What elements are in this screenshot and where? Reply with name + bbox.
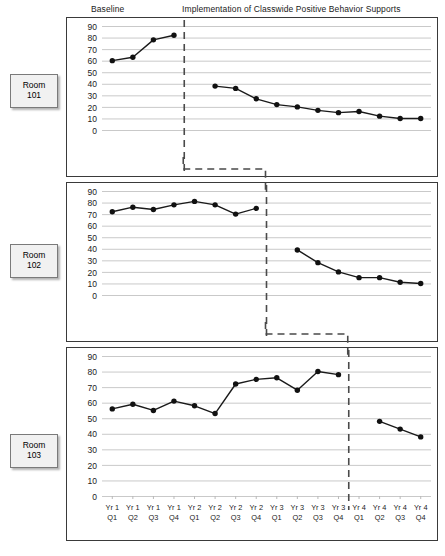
plot-area-room-101: 9080706050403020100 xyxy=(67,18,437,176)
x-tick-label-quarter: Q3 xyxy=(313,513,323,522)
y-tick-label: 40 xyxy=(88,244,98,254)
x-tick-label-quarter: Q2 xyxy=(210,513,220,522)
room-label-103-line2: 103 xyxy=(27,451,41,461)
x-tick-label-year: Yr 3 xyxy=(291,503,305,512)
x-tick-label-year: Yr 2 xyxy=(249,503,263,512)
y-tick-label: 50 xyxy=(88,414,98,424)
y-tick-label: 30 xyxy=(88,91,98,101)
data-point xyxy=(418,116,423,121)
data-point xyxy=(356,275,361,280)
data-point xyxy=(233,86,238,91)
x-tick-label-quarter: Q3 xyxy=(231,513,241,522)
data-line xyxy=(112,372,338,414)
y-tick-label: 30 xyxy=(88,256,98,266)
data-point xyxy=(254,377,259,382)
x-tick-label-year: Yr 2 xyxy=(229,503,243,512)
x-tick-label-year: Yr 4 xyxy=(373,503,387,512)
phase-label-implementation: Implementation of Classwide Positive Beh… xyxy=(182,4,400,14)
y-tick-label: 0 xyxy=(92,126,97,136)
data-point xyxy=(295,388,300,393)
room-label-102-line2: 102 xyxy=(27,261,41,271)
data-point xyxy=(274,102,279,107)
x-tick-label-year: Yr 1 xyxy=(167,503,181,512)
y-tick-label: 60 xyxy=(88,398,98,408)
data-line xyxy=(112,35,174,60)
data-point xyxy=(151,37,156,42)
y-tick-label: 20 xyxy=(88,461,98,471)
data-point xyxy=(110,58,115,63)
x-tick-label-quarter: Q1 xyxy=(354,513,364,522)
y-tick-label: 10 xyxy=(88,279,98,289)
x-tick-label-quarter: Q4 xyxy=(169,513,179,522)
y-tick-label: 50 xyxy=(88,233,98,243)
y-tick-label: 40 xyxy=(88,79,98,89)
x-tick-label-year: Yr 2 xyxy=(208,503,222,512)
data-point xyxy=(315,260,320,265)
phase-label-baseline: Baseline xyxy=(91,4,124,14)
data-point xyxy=(397,280,402,285)
data-point xyxy=(171,398,176,403)
data-point xyxy=(233,211,238,216)
data-point xyxy=(295,104,300,109)
y-tick-label: 30 xyxy=(88,445,98,455)
data-point xyxy=(212,411,217,416)
x-tick-label-year: Yr 1 xyxy=(106,503,120,512)
data-point xyxy=(254,206,259,211)
y-tick-label: 80 xyxy=(88,198,98,208)
data-point xyxy=(130,55,135,60)
panel-room-101: 9080706050403020100 xyxy=(66,17,438,177)
data-line xyxy=(215,86,421,118)
x-tick-label-quarter: Q2 xyxy=(128,513,138,522)
data-point xyxy=(212,83,217,88)
x-tick-label-year: Yr 4 xyxy=(414,503,428,512)
data-point xyxy=(192,199,197,204)
x-tick-label-quarter: Q1 xyxy=(190,513,200,522)
x-tick-label-year: Yr 3 xyxy=(311,503,325,512)
y-tick-label: 90 xyxy=(88,22,98,32)
data-point xyxy=(151,207,156,212)
y-tick-label: 90 xyxy=(88,187,98,197)
x-tick-label-quarter: Q1 xyxy=(272,513,282,522)
y-tick-label: 60 xyxy=(88,221,98,231)
room-label-102: Room 102 xyxy=(10,244,58,278)
data-point xyxy=(397,116,402,121)
y-tick-label: 0 xyxy=(92,492,97,502)
data-point xyxy=(336,269,341,274)
y-tick-label: 20 xyxy=(88,268,98,278)
y-tick-label: 90 xyxy=(88,352,98,362)
x-tick-label-quarter: Q1 xyxy=(107,513,117,522)
room-label-101: Room 101 xyxy=(10,74,58,108)
x-tick-label-quarter: Q4 xyxy=(416,513,426,522)
data-point xyxy=(110,406,115,411)
y-tick-label: 80 xyxy=(88,33,98,43)
panel-room-103: 9080706050403020100Yr 1Q1Yr 1Q2Yr 1Q3Yr … xyxy=(66,347,438,541)
x-tick-label-year: Yr 1 xyxy=(126,503,140,512)
x-tick-label-year: Yr 3 xyxy=(270,503,284,512)
data-point xyxy=(192,403,197,408)
y-tick-label: 80 xyxy=(88,367,98,377)
data-point xyxy=(130,204,135,209)
y-tick-label: 10 xyxy=(88,476,98,486)
x-tick-label-year: Yr 2 xyxy=(188,503,202,512)
y-tick-label: 60 xyxy=(88,56,98,66)
data-point xyxy=(295,247,300,252)
panel-room-102: 9080706050403020100 xyxy=(66,182,438,342)
y-tick-label: 40 xyxy=(88,429,98,439)
x-tick-label-quarter: Q4 xyxy=(251,513,261,522)
data-point xyxy=(274,375,279,380)
data-point xyxy=(110,209,115,214)
data-point xyxy=(151,408,156,413)
x-tick-label-quarter: Q4 xyxy=(334,513,344,522)
y-tick-label: 20 xyxy=(88,103,98,113)
plot-area-room-103: 9080706050403020100Yr 1Q1Yr 1Q2Yr 1Q3Yr … xyxy=(67,348,437,540)
x-tick-label-quarter: Q2 xyxy=(292,513,302,522)
data-point xyxy=(377,419,382,424)
data-point xyxy=(171,202,176,207)
data-point xyxy=(418,281,423,286)
data-point xyxy=(397,426,402,431)
data-point xyxy=(130,402,135,407)
y-tick-label: 50 xyxy=(88,68,98,78)
data-point xyxy=(377,113,382,118)
data-point xyxy=(336,110,341,115)
data-point xyxy=(418,434,423,439)
